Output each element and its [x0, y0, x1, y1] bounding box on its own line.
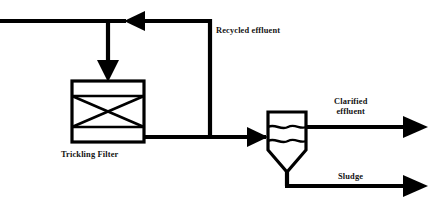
recycle-arrow-head-icon — [124, 11, 145, 31]
clarified-effluent-arrow-head-icon — [403, 116, 428, 138]
recycled-effluent-label: Recycled effluent — [216, 26, 280, 36]
process-flow-diagram: Recycled effluent Trickling Filter Clari… — [0, 0, 430, 219]
filter-feed-stream — [97, 21, 119, 82]
trickling-filter-unit — [72, 81, 144, 142]
filter-effluent-stream — [144, 127, 268, 147]
clarified-effluent-stream — [306, 116, 428, 138]
secondary-clarifier-unit — [268, 112, 306, 172]
filter-effluent-arrow-head-icon — [247, 127, 268, 147]
sludge-label: Sludge — [338, 172, 363, 182]
sludge-arrow-head-icon — [403, 175, 428, 197]
trickling-filter-label: Trickling Filter — [61, 150, 118, 160]
clarified-effluent-label-line2: effluent — [336, 107, 365, 116]
clarified-effluent-label: Clarifiedeffluent — [334, 97, 367, 117]
clarified-effluent-label-line1: Clarified — [334, 97, 367, 106]
filter-feed-arrow-head-icon — [97, 60, 119, 82]
